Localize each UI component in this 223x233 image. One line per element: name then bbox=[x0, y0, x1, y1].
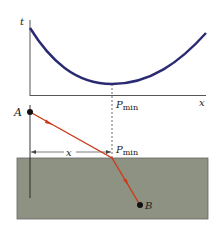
distance-label: x bbox=[66, 147, 72, 158]
point-b-label: B bbox=[144, 200, 152, 211]
point-a-label: A bbox=[13, 106, 22, 119]
distance-arrowhead-left-icon bbox=[31, 150, 36, 154]
point-b-icon bbox=[137, 202, 143, 208]
distance-arrowhead-right-icon bbox=[106, 150, 111, 154]
graph-pmin-label: Pmin bbox=[115, 99, 138, 112]
x-axis-label: x bbox=[199, 97, 205, 108]
point-a-icon bbox=[27, 109, 33, 115]
fermat-principle-diagram: t x Pmin x A B Pmin bbox=[0, 0, 223, 233]
ray-arrow-icon bbox=[45, 120, 53, 126]
refraction-scene: x A B Pmin bbox=[13, 105, 208, 219]
denser-medium bbox=[17, 158, 208, 219]
t-axis-label: t bbox=[20, 16, 25, 27]
interface-pmin-label: Pmin bbox=[115, 144, 138, 157]
time-vs-position-graph: t x Pmin bbox=[20, 16, 206, 158]
time-curve bbox=[30, 28, 206, 84]
